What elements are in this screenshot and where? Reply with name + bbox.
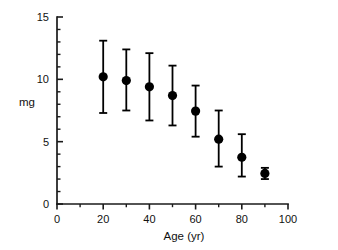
x-tick-label: 0: [54, 213, 60, 225]
data-point-marker: [214, 135, 223, 144]
data-series: [99, 41, 270, 179]
x-tick-label: 80: [236, 213, 248, 225]
data-point-group: [191, 86, 200, 137]
y-tick-label: 15: [37, 11, 49, 23]
data-point-marker: [99, 72, 108, 81]
x-tick-label: 60: [189, 213, 201, 225]
data-point-group: [260, 168, 269, 179]
x-tick-label: 40: [143, 213, 155, 225]
x-tick-label: 20: [97, 213, 109, 225]
y-axis-title: mg: [19, 96, 35, 108]
data-point-marker: [122, 76, 131, 85]
data-point-marker: [191, 107, 200, 116]
data-point-marker: [145, 82, 154, 91]
x-tick-label: 100: [279, 213, 297, 225]
y-tick-label: 5: [43, 136, 49, 148]
data-point-group: [99, 41, 108, 113]
scatter-plot-with-error-bars: 051015020406080100 Age (yr) mg: [0, 0, 338, 250]
y-tick-label: 10: [37, 73, 49, 85]
data-point-group: [168, 66, 177, 126]
data-point-group: [237, 134, 246, 176]
chart-figure: 051015020406080100 Age (yr) mg: [0, 0, 338, 250]
data-point-marker: [260, 169, 269, 178]
x-axis-title: Age (yr): [164, 230, 205, 242]
data-point-marker: [237, 153, 246, 162]
data-point-group: [122, 49, 131, 110]
axis-tick-labels: 051015020406080100: [37, 11, 297, 225]
data-point-group: [214, 111, 223, 167]
data-point-marker: [168, 91, 177, 100]
data-point-group: [145, 53, 154, 120]
y-tick-label: 0: [43, 198, 49, 210]
